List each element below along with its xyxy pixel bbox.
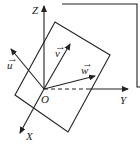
svg-text:→: → [7, 52, 18, 64]
vector-u-label: u → [7, 52, 18, 71]
svg-text:→: → [55, 40, 66, 52]
coordinate-diagram: Z Y X O u → v → w → [0, 0, 140, 144]
origin-label: O [41, 93, 49, 105]
vector-w [44, 76, 95, 89]
svg-text:→: → [82, 57, 93, 69]
z-axis-label: Z [32, 4, 39, 16]
frame-bracket [62, 4, 140, 87]
vector-w-label: w → [81, 57, 93, 76]
x-axis-label: X [25, 130, 34, 142]
vector-v-label: v → [55, 40, 66, 59]
y-axis-label: Y [120, 94, 128, 106]
